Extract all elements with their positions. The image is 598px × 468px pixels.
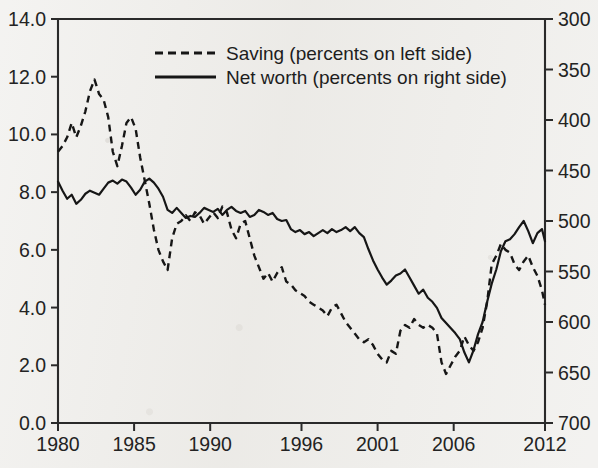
y-axis-tick-label-right: 450	[558, 160, 591, 182]
y-axis-tick-label-left: 4.0	[19, 297, 46, 319]
x-axis-tick-label: 2001	[356, 433, 399, 455]
series-line-saving	[58, 80, 545, 374]
y-axis-tick-label-right: 300	[558, 8, 591, 30]
y-axis-tick-label-left: 8.0	[19, 181, 46, 203]
y-axis-tick-label-right: 700	[558, 412, 591, 434]
y-axis-tick-label-right: 350	[558, 59, 591, 81]
x-axis-tick-label: 2006	[432, 433, 475, 455]
y-axis-tick-label-left: 14.0	[8, 8, 46, 30]
y-axis-tick-label-right: 550	[558, 261, 591, 283]
line-chart: 0.02.04.06.08.010.012.014.03003504004505…	[0, 0, 598, 468]
series-line-net-worth	[58, 179, 545, 363]
y-axis-tick-label-left: 0.0	[19, 412, 46, 434]
y-axis-tick-label-right: 400	[558, 109, 591, 131]
y-axis-tick-label-right: 650	[558, 362, 591, 384]
x-axis-tick-label: 1990	[188, 433, 232, 455]
y-axis-tick-label-left: 10.0	[8, 123, 46, 145]
x-axis-tick-label: 1985	[112, 433, 156, 455]
y-axis-tick-label-left: 2.0	[19, 354, 46, 376]
x-axis-tick-label: 2012	[523, 433, 566, 455]
legend-label-net-worth: Net worth (percents on right side)	[226, 67, 507, 88]
y-axis-tick-label-left: 12.0	[8, 66, 46, 88]
y-axis-tick-label-left: 6.0	[19, 239, 46, 261]
legend-label-saving: Saving (percents on left side)	[226, 43, 472, 64]
chart-container: 0.02.04.06.08.010.012.014.03003504004505…	[0, 0, 598, 468]
y-axis-tick-label-right: 500	[558, 210, 591, 232]
chart-legend: Saving (percents on left side)Net worth …	[155, 43, 507, 88]
x-axis-tick-label: 1980	[36, 433, 80, 455]
x-axis-tick-label: 1996	[280, 433, 323, 455]
y-axis-tick-label-right: 600	[558, 311, 591, 333]
